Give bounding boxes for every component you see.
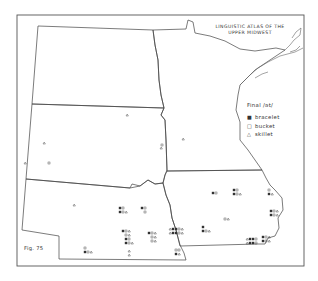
legend-item-skillet: △ skillet	[247, 130, 280, 139]
minnesota-border	[153, 20, 285, 171]
legend-label: bracelet	[255, 114, 280, 120]
filled-square-icon: ■	[247, 114, 255, 120]
legend-label: bucket	[255, 123, 275, 129]
north-dakota-border	[32, 26, 164, 108]
triangle-icon: △	[247, 131, 255, 137]
open-square-icon: □	[247, 123, 255, 129]
atlas-title-line2: UPPER MIDWEST	[215, 30, 285, 36]
legend-label: skillet	[255, 131, 273, 137]
iowa-border	[163, 170, 283, 246]
figure-label: Fig. 75	[24, 245, 43, 251]
legend-heading: Final /ət/	[247, 102, 280, 108]
legend-item-bucket: □ bucket	[247, 122, 280, 131]
map-frame	[17, 15, 304, 266]
legend: Final /ət/ ■ bracelet □ bucket △ skillet	[247, 102, 280, 139]
linguistic-atlas-map	[0, 0, 318, 281]
lake-superior-shore	[240, 28, 303, 85]
south-dakota-border	[26, 104, 167, 188]
atlas-title: LINGUISTIC ATLAS OF THE UPPER MIDWEST	[215, 24, 285, 36]
legend-item-bracelet: ■ bracelet	[247, 113, 280, 122]
nebraska-border	[22, 179, 186, 260]
